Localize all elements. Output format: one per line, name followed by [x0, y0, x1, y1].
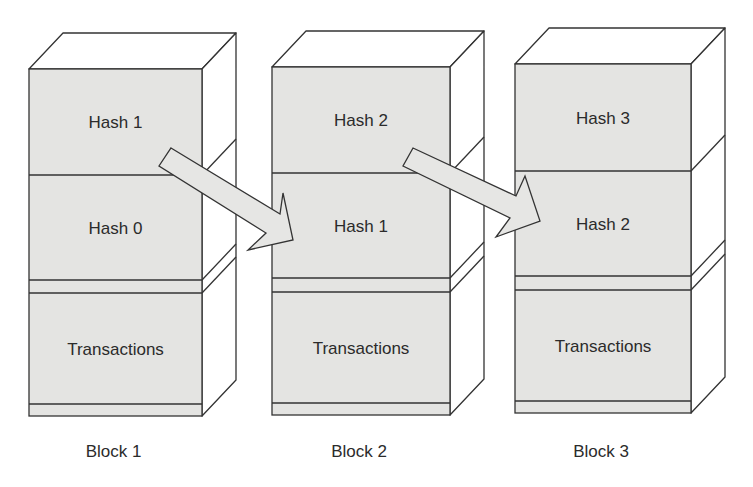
transactions-label: Transactions [313, 339, 410, 358]
transactions-label: Transactions [67, 340, 164, 359]
current-hash-label: Hash 2 [334, 111, 388, 130]
current-hash-label: Hash 1 [89, 113, 143, 132]
block-side-face [691, 28, 725, 413]
current-hash-label: Hash 3 [576, 109, 630, 128]
blockchain-diagram: Hash 1Hash 0TransactionsBlock 1Hash 2Has… [0, 0, 753, 487]
block-side-face [450, 31, 484, 415]
block-top-face [29, 33, 236, 69]
previous-hash-label: Hash 2 [576, 215, 630, 234]
block-caption: Block 3 [573, 442, 629, 461]
block-caption: Block 2 [331, 442, 387, 461]
previous-hash-label: Hash 1 [334, 217, 388, 236]
transactions-label: Transactions [555, 337, 652, 356]
block-side-face [202, 33, 236, 416]
block-top-face [272, 31, 484, 67]
previous-hash-label: Hash 0 [89, 219, 143, 238]
block-caption: Block 1 [86, 442, 142, 461]
block-top-face [515, 28, 725, 64]
